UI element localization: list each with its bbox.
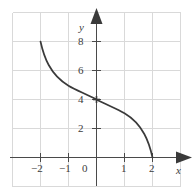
x-axis-label: x xyxy=(176,165,181,176)
y-axis-label: y xyxy=(79,22,84,33)
y-tick-label-8: 8 xyxy=(78,36,84,47)
graph-canvas xyxy=(0,0,194,196)
y-tick-label-2: 2 xyxy=(78,123,84,134)
graph-figure: y x 0 8 6 4 2 −2 −1 1 2 xyxy=(0,0,194,196)
x-tick-label-minus2: −2 xyxy=(31,163,43,174)
x-tick-label-minus1: −1 xyxy=(59,163,71,174)
y-tick-label-6: 6 xyxy=(78,65,84,76)
origin-label: 0 xyxy=(82,163,88,174)
y-tick-label-4: 4 xyxy=(78,94,84,105)
x-tick-label-1: 1 xyxy=(121,163,127,174)
x-tick-label-2: 2 xyxy=(149,163,155,174)
